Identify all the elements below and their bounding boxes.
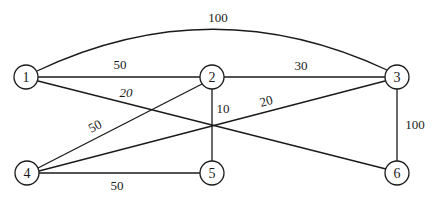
weight-2-3: 30 xyxy=(295,58,308,73)
weight-2-5: 10 xyxy=(217,101,230,116)
weight-4-5: 50 xyxy=(111,178,124,193)
node-3-label: 3 xyxy=(394,70,401,85)
node-6: 6 xyxy=(385,161,409,185)
node-3: 3 xyxy=(385,65,409,89)
weight-1-3: 100 xyxy=(208,10,228,25)
node-1: 1 xyxy=(14,65,38,89)
weight-4-3: 20 xyxy=(258,92,274,110)
weighted-graph-diagram: 100 50 20 30 10 50 20 50 100 1 2 3 4 5 6 xyxy=(0,0,436,202)
node-5: 5 xyxy=(200,161,224,185)
weight-1-2: 50 xyxy=(114,57,127,72)
weight-3-6: 100 xyxy=(405,117,425,132)
node-2: 2 xyxy=(200,65,224,89)
node-4: 4 xyxy=(15,161,39,185)
weight-1-6: 20 xyxy=(120,85,134,100)
node-5-label: 5 xyxy=(209,166,216,181)
node-6-label: 6 xyxy=(394,166,401,181)
node-1-label: 1 xyxy=(23,70,30,85)
node-2-label: 2 xyxy=(209,70,216,85)
node-4-label: 4 xyxy=(24,166,31,181)
weight-2-4: 50 xyxy=(86,116,105,135)
